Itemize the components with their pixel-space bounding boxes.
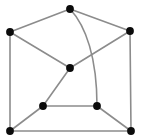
graph-edge-mid-left-to-bottom-left [10,106,43,131]
graph-vertex-mid-left [39,102,47,110]
graph-edge-center-to-top-right [70,31,130,68]
graph-vertex-bottom-left [6,127,14,135]
graph-canvas [0,0,144,139]
graph-vertex-top-left [6,28,14,36]
graph-vertex-bottom-right [127,127,135,135]
graph-edge-top-right-to-bottom-right [130,31,131,131]
graph-edge-top-to-mid-right [70,9,97,106]
graph-vertex-top-right [126,27,134,35]
graph-edge-mid-right-to-bottom-right [97,106,131,131]
vertex-layer [6,5,135,135]
graph-edge-top-to-top-left [10,9,70,32]
graph-vertex-center [66,64,74,72]
graph-figure [0,0,144,139]
graph-vertex-mid-right [93,102,101,110]
graph-vertex-top [66,5,74,13]
graph-edge-center-to-mid-left [43,68,70,106]
graph-edge-top-left-to-center [10,32,70,68]
